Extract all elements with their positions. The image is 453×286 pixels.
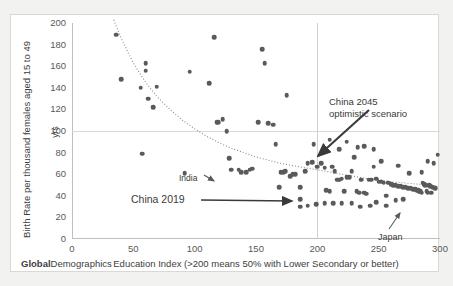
data-point [310, 160, 315, 165]
y-axis-tick: 160 [50, 61, 66, 71]
brand-rest: Demographics [51, 258, 112, 269]
data-point [352, 155, 357, 160]
data-point [340, 201, 345, 206]
data-point [327, 189, 332, 194]
annotation-china-2045-line1: China 2045 [329, 96, 407, 108]
data-point [359, 177, 364, 182]
data-point [284, 93, 289, 98]
data-point [146, 96, 151, 101]
x-axis-tick: 300 [432, 244, 448, 254]
data-point [114, 33, 119, 38]
data-point [358, 204, 363, 209]
data-point [368, 203, 373, 208]
y-axis-tick: 40 [55, 191, 66, 201]
data-point [384, 203, 389, 208]
data-point [321, 148, 326, 153]
x-axis-tick: 50 [128, 244, 139, 254]
y-axis-tick: 120 [50, 105, 66, 115]
data-point [143, 68, 148, 73]
data-point [429, 190, 434, 195]
x-axis-tick: 150 [248, 244, 264, 254]
x-axis-tick: 0 [69, 244, 74, 254]
data-point [298, 185, 303, 190]
x-axis-tick: 100 [187, 244, 203, 254]
y-axis-tick: 200 [50, 18, 66, 28]
data-point [250, 167, 255, 172]
data-point [419, 170, 424, 175]
annotation-china-2045-line2: optimistic scenario [329, 108, 407, 120]
data-point [435, 152, 440, 157]
x-axis-tick: 250 [371, 244, 387, 254]
data-point [357, 190, 362, 195]
data-point [143, 61, 148, 66]
data-point [154, 84, 159, 89]
y-axis-tick: 60 [55, 169, 66, 179]
data-point [151, 105, 156, 110]
annotation-japan: Japan [378, 231, 403, 243]
data-point [369, 177, 374, 182]
data-point [212, 35, 217, 40]
x-axis-tick: 200 [309, 244, 325, 254]
data-point [322, 165, 327, 170]
data-point [384, 194, 389, 199]
y-axis-tick: 0 [61, 234, 66, 244]
data-point [332, 169, 337, 174]
data-point [119, 77, 124, 82]
data-point [396, 163, 401, 168]
y-axis-tick: 140 [50, 83, 66, 93]
data-point [273, 142, 278, 147]
data-point [433, 186, 438, 191]
y-axis-tick: 20 [55, 213, 66, 223]
chart-figure: Birth Rate per thousand females aged 15 … [10, 14, 439, 272]
data-point [266, 121, 271, 126]
data-point [419, 190, 424, 195]
data-point [207, 81, 212, 86]
data-point [337, 147, 342, 152]
data-point [303, 169, 308, 174]
data-point [322, 201, 327, 206]
data-point [262, 61, 267, 66]
data-point [138, 86, 143, 91]
annotation-india: India [179, 172, 197, 184]
data-point [140, 151, 145, 156]
data-point [356, 145, 361, 150]
data-point [277, 185, 282, 190]
data-point [371, 147, 376, 152]
y-axis-title: Birth Rate per thousand females aged 15 … [19, 15, 33, 263]
data-point [298, 197, 303, 202]
y-axis-title-text: Birth Rate per thousand females aged 15 … [21, 41, 32, 238]
data-point [260, 47, 265, 52]
data-point [432, 161, 437, 166]
data-point [407, 171, 412, 176]
data-point [379, 159, 384, 164]
data-point [221, 117, 226, 122]
x-axis-title: Education Index (>200 means 50% with Low… [72, 258, 440, 269]
data-point [293, 172, 298, 177]
brand-bold: Global [21, 258, 51, 269]
data-point [314, 202, 319, 207]
data-point [311, 142, 316, 147]
annotation-china-2045: China 2045 optimistic scenario [329, 96, 407, 120]
data-point [340, 176, 345, 181]
data-point [227, 156, 232, 161]
data-point [239, 170, 244, 175]
data-point [229, 168, 234, 173]
data-point [364, 191, 369, 196]
data-point [327, 137, 332, 142]
data-point [224, 129, 229, 134]
data-point [381, 181, 386, 186]
data-point [349, 201, 354, 206]
data-point [401, 197, 406, 202]
brand-label: GlobalDemographics [21, 258, 112, 269]
data-point [283, 169, 288, 174]
y-axis-tick: 100 [50, 126, 66, 136]
data-point [347, 175, 352, 180]
plot-area: 020406080100120140160180200 050100150200… [72, 23, 440, 239]
data-point [331, 201, 336, 206]
y-axis-tick: 80 [55, 148, 66, 158]
data-point [362, 144, 367, 149]
data-point [394, 198, 399, 203]
annotation-china-2019: China 2019 [131, 193, 185, 205]
data-point [305, 203, 310, 208]
data-point [371, 164, 376, 169]
